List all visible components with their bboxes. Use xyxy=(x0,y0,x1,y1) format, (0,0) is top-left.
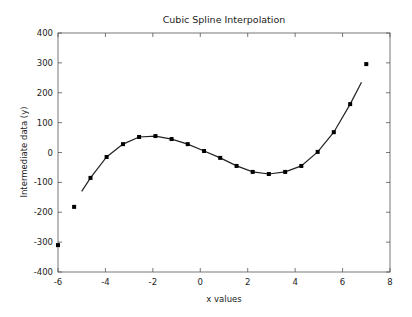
x-tick-label: 4 xyxy=(292,277,297,287)
data-point xyxy=(332,130,336,134)
x-axis-label: x values xyxy=(206,294,242,304)
y-tick-label: -300 xyxy=(34,237,53,247)
x-tick-label: 8 xyxy=(387,277,392,287)
y-tick-label: 200 xyxy=(37,88,53,98)
y-tick-label: 100 xyxy=(37,118,53,128)
y-tick-label: 0 xyxy=(48,148,53,158)
data-point xyxy=(267,172,271,176)
data-point xyxy=(88,176,92,180)
data-point xyxy=(56,243,60,247)
y-tick-label: -100 xyxy=(34,177,53,187)
x-tick-label: -4 xyxy=(101,277,109,287)
data-point xyxy=(105,155,109,159)
data-point xyxy=(121,142,125,146)
data-point xyxy=(283,170,287,174)
data-point xyxy=(235,164,239,168)
data-point xyxy=(170,137,174,141)
chart-title: Cubic Spline Interpolation xyxy=(163,14,286,25)
x-tick-label: 0 xyxy=(198,277,203,287)
plot-area xyxy=(58,33,390,272)
data-point xyxy=(348,102,352,106)
y-tick-label: -400 xyxy=(34,267,53,277)
x-tick-label: -2 xyxy=(149,277,157,287)
x-tick-label: -6 xyxy=(54,277,62,287)
data-point xyxy=(364,62,368,66)
data-point xyxy=(72,205,76,209)
y-tick-label: 400 xyxy=(37,28,53,38)
data-point xyxy=(153,134,157,138)
data-point xyxy=(202,149,206,153)
data-point xyxy=(137,135,141,139)
data-point xyxy=(218,156,222,160)
y-axis-label: Intermediate data (y) xyxy=(19,106,29,197)
y-tick-label: 300 xyxy=(37,58,53,68)
data-point xyxy=(316,150,320,154)
x-tick-label: 2 xyxy=(245,277,250,287)
data-point xyxy=(186,142,190,146)
chart: Cubic Spline Interpolation -6-4-202468 -… xyxy=(0,0,412,317)
data-point xyxy=(251,170,255,174)
x-tick-label: 6 xyxy=(340,277,345,287)
y-tick-label: -200 xyxy=(34,207,53,217)
data-point xyxy=(299,164,303,168)
